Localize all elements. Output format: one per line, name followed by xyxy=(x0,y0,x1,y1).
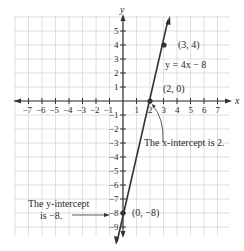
coordinate-graph: −7−6−5−4−3−2−11234567 54321−1−2−3−4−5−6−… xyxy=(0,0,244,251)
point-2-0 xyxy=(147,98,152,103)
y-axis-arrow-up xyxy=(121,14,126,21)
y-intercept-annotation-line2: is −8. xyxy=(40,210,62,221)
y-tick-label: −6 xyxy=(109,180,119,190)
x-axis-arrow-right xyxy=(225,99,232,104)
x-tick-label: −2 xyxy=(90,105,100,115)
y-tick-label: −9 xyxy=(109,222,119,232)
y-tick-label: −1 xyxy=(109,110,119,120)
x-tick-label: 3 xyxy=(162,105,167,115)
y-axis-label: y xyxy=(119,4,125,15)
y-tick-label: 1 xyxy=(114,82,119,92)
y-tick-label: 5 xyxy=(114,26,119,36)
x-intercept-annotation: The x-intercept is 2. xyxy=(144,137,225,148)
x-tick-label: 6 xyxy=(202,105,207,115)
point-label-0-neg8: (0, −8) xyxy=(132,207,159,219)
point-0-neg8 xyxy=(120,210,125,215)
y-tick-label: 2 xyxy=(114,68,119,78)
point-label-2-0: (2, 0) xyxy=(163,83,185,95)
x-axis-label: x xyxy=(234,95,240,106)
y-tick-label: −7 xyxy=(109,194,119,204)
y-tick-label: −5 xyxy=(109,166,119,176)
equation-label: y = 4x − 8 xyxy=(165,59,206,70)
x-tick-label: 7 xyxy=(216,105,221,115)
x-tick-label: −6 xyxy=(36,105,46,115)
x-tick-label: −5 xyxy=(50,105,60,115)
x-tick-label: 4 xyxy=(175,105,180,115)
x-tick-label: −4 xyxy=(63,105,73,115)
y-tick-label: 3 xyxy=(114,54,119,64)
x-tick-label: 1 xyxy=(135,105,140,115)
y-tick-label: −8 xyxy=(109,208,119,218)
point-3-4 xyxy=(161,42,166,47)
x-tick-label: 5 xyxy=(189,105,194,115)
x-tick-label: −7 xyxy=(23,105,33,115)
y-intercept-annotation-line1: The y-intercept xyxy=(28,198,90,209)
x-tick-label: −3 xyxy=(77,105,87,115)
y-tick-label: −2 xyxy=(109,124,119,134)
y-tick-label: −3 xyxy=(109,138,119,148)
line-arrow-bottom xyxy=(114,236,119,245)
y-tick-label: 4 xyxy=(114,40,119,50)
point-label-3-4: (3, 4) xyxy=(178,39,200,51)
y-axis-arrow-down xyxy=(121,231,126,238)
y-tick-label: −4 xyxy=(109,152,119,162)
